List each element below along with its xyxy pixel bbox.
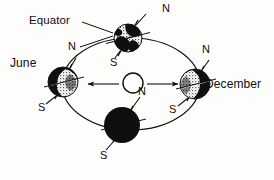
seasons-diagram-figure: Equator June December N N N N S S S S bbox=[0, 0, 274, 180]
south-pole-label-top: S bbox=[110, 57, 117, 68]
south-pole-label-june: S bbox=[38, 102, 45, 113]
earth-position-bottom bbox=[101, 97, 146, 150]
north-pole-label-top: N bbox=[162, 3, 170, 14]
south-pole-label-bottom: S bbox=[100, 150, 107, 161]
june-label: June bbox=[10, 57, 36, 69]
december-label: December bbox=[205, 78, 261, 90]
equator-label: Equator bbox=[29, 15, 70, 27]
north-pole-label-december: N bbox=[202, 44, 210, 55]
earth-position-june bbox=[44, 58, 84, 104]
north-pole-label-june: N bbox=[68, 41, 76, 52]
equator-leader-to-pole bbox=[80, 36, 113, 47]
equator-leader-to-globe bbox=[82, 22, 113, 33]
north-pole-label-bottom: N bbox=[138, 86, 146, 97]
south-pole-label-december: S bbox=[169, 104, 176, 115]
